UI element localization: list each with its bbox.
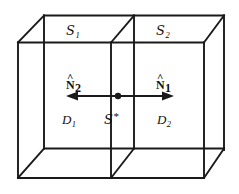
interface-symbol: S	[104, 112, 113, 127]
label-interface-surface: S*	[104, 111, 119, 127]
label-surface-2: S2	[156, 22, 170, 39]
domain-2-subscript: 2	[166, 119, 171, 129]
label-domain-2: D2	[157, 111, 171, 128]
surface-2-subscript: 2	[165, 30, 170, 40]
partition-depth-edge-top	[111, 16, 134, 43]
domain-2-symbol: D	[157, 112, 166, 127]
label-normal-vector-2: ^N2	[66, 76, 81, 94]
interface-superscript: *	[113, 110, 119, 122]
interface-point-dot	[115, 93, 121, 99]
normal-2-subscript: 2	[75, 82, 81, 94]
depth-edge-top-left	[18, 16, 44, 43]
label-domain-1: D1	[62, 111, 76, 128]
normal-1-symbol: ^N	[156, 79, 165, 91]
surface-1-subscript: 1	[75, 30, 80, 40]
box-diagram-svg	[0, 0, 239, 194]
label-surface-1: S1	[66, 22, 80, 39]
surface-1-symbol: S	[66, 23, 75, 38]
depth-edge-top-right	[204, 16, 224, 43]
hat-accent-icon: ^	[67, 72, 73, 83]
label-normal-vector-1: ^N1	[156, 76, 171, 94]
surface-2-symbol: S	[156, 23, 165, 38]
depth-edge-bottom-left	[18, 149, 44, 179]
normal-1-subscript: 1	[165, 82, 171, 94]
figure-container: S1 S2 ^N2 ^N1 D1 S* D2	[0, 0, 239, 194]
partition-depth-edge-bottom	[111, 149, 134, 179]
normal-2-symbol: ^N	[66, 79, 75, 91]
depth-edge-bottom-right	[204, 149, 224, 179]
hat-accent-icon: ^	[157, 72, 163, 83]
domain-1-subscript: 1	[71, 119, 76, 129]
domain-1-symbol: D	[62, 112, 71, 127]
